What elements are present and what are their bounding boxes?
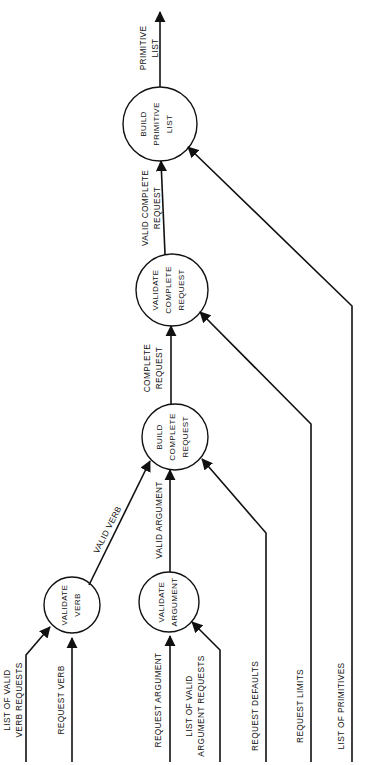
process-label-validate-argument-line1: VALIDATE <box>157 581 166 622</box>
process-label-build-primitive-list-line1: BUILD <box>139 111 148 137</box>
flow-label-list-of-valid-verb-requests-line1: LIST OF VALID <box>2 669 12 730</box>
process-label-build-primitive-list-line2: PRIMITIVE <box>152 102 161 146</box>
flow-label-request-defaults: REQUEST DEFAULTS <box>250 661 260 751</box>
process-label-validate-complete-request-line3: REQUEST <box>177 269 186 311</box>
process-label-build-complete-request-line1: BUILD <box>155 424 164 450</box>
flow-label-list-of-valid-verb-requests-line2: VERB REQUESTS <box>14 662 24 737</box>
process-label-build-complete-request-line3: REQUEST <box>181 416 190 458</box>
flow-label-complete-request-line1: COMPLETE <box>142 344 152 393</box>
flow-label-list-of-valid-argument-requests-line2: ARGUMENT REQUESTS <box>196 655 206 756</box>
flow-label-valid-complete-request-line2: REQUEST <box>152 187 162 230</box>
process-label-build-primitive-list-line3: LIST <box>165 115 174 134</box>
flow-label-list-of-primitives: LIST OF PRIMITIVES <box>336 662 346 749</box>
process-label-validate-complete-request-line1: VALIDATE <box>151 269 160 310</box>
dataflow-diagram: BUILD PRIMITIVE LIST VALIDATE COMPLETE R… <box>0 0 366 765</box>
flow-label-primitive-list-line1: PRIMITIVE <box>138 26 148 71</box>
process-label-build-complete-request-line2: COMPLETE <box>168 413 177 461</box>
flow-label-valid-complete-request-line1: VALID COMPLETE <box>140 170 150 246</box>
flow-label-request-verb: REQUEST VERB <box>56 665 66 734</box>
flow-label-complete-request-line2: REQUEST <box>154 347 164 390</box>
flow-label-valid-argument: VALID ARGUMENT <box>154 481 164 559</box>
flow-label-primitive-list-line2: LIST <box>150 39 160 58</box>
process-label-validate-verb-line2: VERB <box>73 593 82 616</box>
process-label-validate-complete-request-line2: COMPLETE <box>164 266 173 314</box>
flow-label-list-of-valid-argument-requests-line1: LIST OF VALID <box>184 675 194 736</box>
process-label-validate-verb-line1: VALIDATE <box>60 584 69 625</box>
flow-label-request-argument: REQUEST ARGUMENT <box>153 653 163 748</box>
process-label-validate-argument-line2: ARGUMENT <box>170 577 179 626</box>
flow-label-request-limits: REQUEST LIMITS <box>295 669 305 743</box>
diagram-canvas: BUILD PRIMITIVE LIST VALIDATE COMPLETE R… <box>0 0 366 765</box>
